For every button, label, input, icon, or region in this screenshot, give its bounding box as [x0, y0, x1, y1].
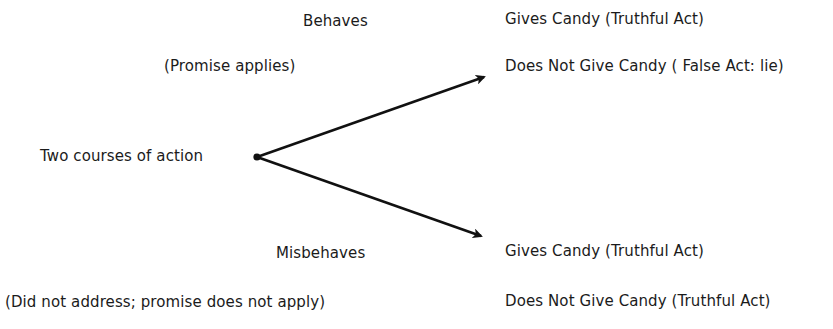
origin-dot [253, 153, 260, 160]
branch-behaves-note: (Promise applies) [164, 57, 295, 75]
outcome-misbehaves-gives-candy: Gives Candy (Truthful Act) [505, 242, 704, 260]
arrow-misbehaves [257, 157, 481, 236]
decision-diagram: Two courses of action Behaves (Promise a… [0, 0, 833, 329]
branch-misbehaves-label: Misbehaves [276, 244, 365, 262]
arrow-behaves [257, 77, 484, 157]
root-label: Two courses of action [40, 147, 203, 165]
outcome-behaves-gives-candy: Gives Candy (Truthful Act) [505, 10, 704, 28]
outcome-misbehaves-no-candy: Does Not Give Candy (Truthful Act) [505, 292, 771, 310]
branch-behaves-label: Behaves [303, 12, 368, 30]
branch-misbehaves-note: (Did not address; promise does not apply… [5, 293, 325, 311]
outcome-behaves-no-candy: Does Not Give Candy ( False Act: lie) [505, 57, 784, 75]
